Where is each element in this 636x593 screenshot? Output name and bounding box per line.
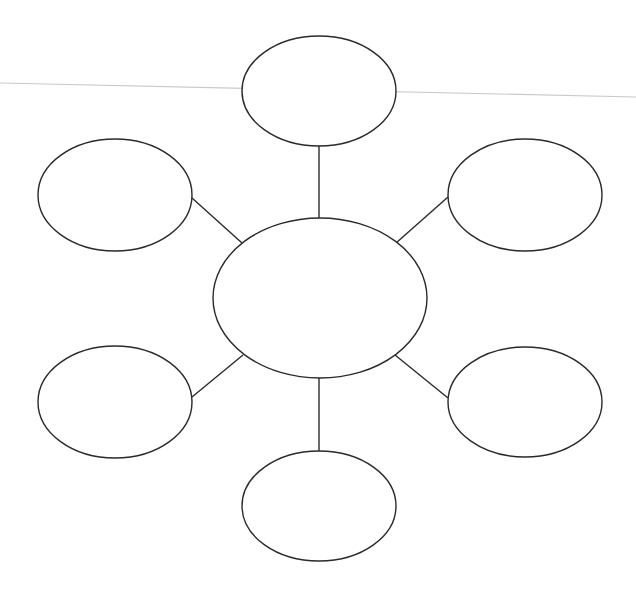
bubble-top-left [38, 139, 192, 251]
bubble-top-shape [242, 36, 396, 146]
connector-top-right [396, 197, 448, 243]
bubble-top [242, 36, 396, 146]
bubble-top-right-shape [448, 139, 602, 251]
bubble-top-right [448, 139, 602, 251]
connector-bottom-left [192, 355, 243, 397]
bubble-map-diagram [0, 0, 636, 593]
bubble-bottom-right-shape [448, 347, 602, 457]
bubble-bottom-left-shape [38, 346, 192, 458]
bubble-bottom-right [448, 347, 602, 457]
bubble-bottom-left [38, 346, 192, 458]
connector-top-left [192, 198, 242, 243]
bubble-top-left-shape [38, 139, 192, 251]
connector-bottom-right [395, 355, 448, 398]
bubble-bottom [242, 451, 396, 561]
bubble-center-shape [213, 218, 427, 378]
bubble-bottom-shape [242, 451, 396, 561]
bubble-center [213, 218, 427, 378]
